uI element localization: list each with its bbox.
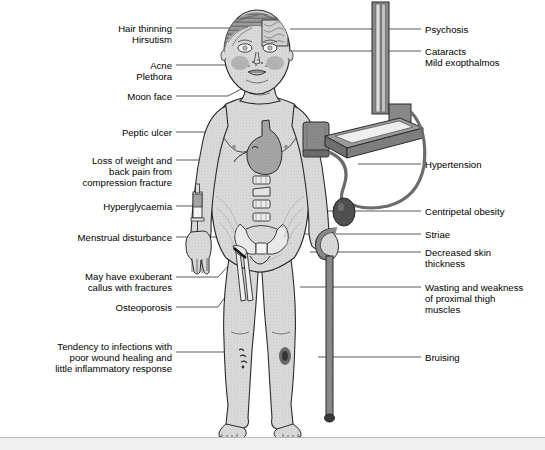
label-hyperglycaemia: Hyperglycaemia [103,201,172,212]
label-line: Loss of weight and [82,155,172,166]
label-psychosis: Psychosis [425,24,468,35]
cheek-acne-patch [266,56,284,70]
left-hand [186,231,211,274]
label-line: Hirsutism [118,34,172,45]
bulb-tubing [329,152,346,200]
label-line: Striae [425,229,450,240]
label-line: little inflammatory response [55,363,172,374]
label-line: Peptic ulcer [122,127,172,138]
label-menstrual-disturbance: Menstrual disturbance [78,232,172,243]
label-line: Acne [136,60,172,71]
label-bruising: Bruising [425,352,460,363]
label-line: Hyperglycaemia [103,201,172,212]
pressure-scale [382,4,386,112]
nipple-left [232,145,236,149]
cheek-plethora-patch [231,56,249,70]
shin-bruise-core [282,351,288,361]
label-line: Hypertension [425,159,482,170]
label-peptic-ulcer: Peptic ulcer [122,127,172,138]
label-wasting-weakness: Wasting and weakness of proximal thigh m… [425,282,523,316]
cataract-lens-left [243,46,247,50]
label-striae: Striae [425,229,450,240]
mercury-column [376,4,380,112]
mercury-sphygmomanometer [325,2,425,226]
label-acne-plethora: Acne Plethora [136,60,172,82]
label-line: callus with fractures [85,282,172,293]
label-line: thickness [425,258,491,269]
diagram-canvas: Hair thinning Hirsutism Acne Plethora Mo… [0,0,545,450]
label-line: Tendency to infections with [55,341,172,352]
label-exuberant-callus: May have exuberant callus with fractures [85,271,172,293]
brain-cortex-inset [262,20,288,46]
label-line: May have exuberant [85,271,172,282]
label-line: Bruising [425,352,460,363]
label-centripetal-obesity: Centripetal obesity [425,206,504,217]
label-loss-of-weight: Loss of weight and back pain from compre… [82,155,172,189]
label-line: Centripetal obesity [425,206,504,217]
label-line: poor wound healing and [55,352,172,363]
nipple-right [284,145,288,149]
label-line: Cataracts [425,46,500,57]
label-hair-thinning: Hair thinning Hirsutism [118,23,172,45]
label-line: Hair thinning [118,23,172,34]
cataract-lens-right [268,46,272,50]
label-line: muscles [425,304,523,315]
patient-legs [224,252,296,429]
label-cataracts: Cataracts Mild exopthalmos [425,46,500,68]
footer-band [0,438,545,450]
label-line: Menstrual disturbance [78,232,172,243]
label-line: Mild exopthalmos [425,57,500,68]
label-line: Osteoporosis [115,302,172,313]
label-decreased-skin-thickness: Decreased skin thickness [425,247,491,269]
label-line: Wasting and weakness [425,282,523,293]
label-hypertension: Hypertension [425,159,482,170]
cane-shaft [326,256,333,416]
label-tendency-to-infections: Tendency to infections with poor wound h… [55,341,172,375]
label-osteoporosis: Osteoporosis [115,302,172,313]
label-line: Psychosis [425,24,468,35]
label-line: Decreased skin [425,247,491,258]
label-line: back pain from [82,166,172,177]
cane-ferrule [325,414,335,422]
label-line: of proximal thigh [425,293,523,304]
label-line: Moon face [127,91,172,102]
label-line: compression fracture [82,177,172,188]
label-line: Plethora [136,71,172,82]
label-moon-face: Moon face [127,91,172,102]
inflation-bulb [333,198,355,226]
